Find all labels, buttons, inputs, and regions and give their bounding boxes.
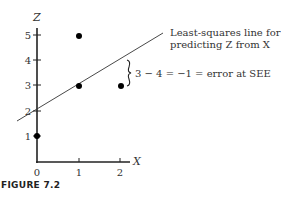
figure-canvas: 5 4 3 2 1 0 1 2 Z X Least-squares line f… xyxy=(0,0,281,197)
x-tick-label: 2 xyxy=(117,167,123,178)
data-point xyxy=(34,133,40,139)
figure-caption: FIGURE 7.2 xyxy=(1,180,60,190)
line-annotation-line1: Least-squares line for xyxy=(170,27,281,38)
error-annotation: 3 − 4 = −1 = error at SEE xyxy=(135,68,271,79)
y-tick-label: 1 xyxy=(25,131,31,142)
data-point xyxy=(76,83,82,89)
line-annotation-line2: predicting Z from X xyxy=(170,39,271,50)
x-tick-label: 1 xyxy=(76,167,82,178)
x-tick-label: 0 xyxy=(34,167,40,178)
x-axis-label: X xyxy=(132,155,142,168)
y-tick-label: 4 xyxy=(25,55,31,66)
data-point xyxy=(76,33,82,39)
y-tick-label: 3 xyxy=(25,80,31,91)
y-axis-label: Z xyxy=(32,11,41,24)
y-tick-label: 5 xyxy=(25,30,31,41)
error-brace-icon xyxy=(127,60,131,86)
data-points xyxy=(34,33,124,139)
data-point xyxy=(118,83,124,89)
